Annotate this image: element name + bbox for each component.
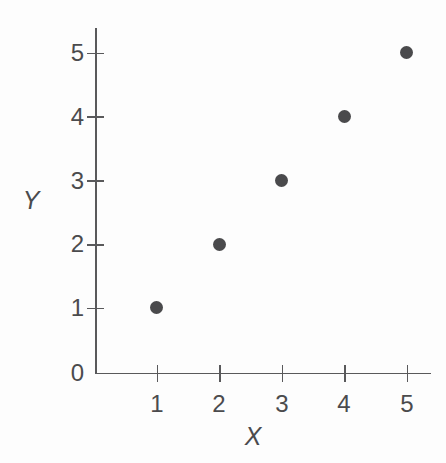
data-point-5 (400, 46, 413, 59)
scatter-plot: 5 4 3 2 1 0 1 2 3 4 5 Y X (0, 0, 446, 463)
y-tick-label-5: 5 (58, 41, 84, 65)
data-point-4 (338, 110, 351, 123)
y-tick-3 (87, 180, 104, 182)
x-axis-title: X (240, 424, 266, 449)
x-tick-label-3: 3 (269, 392, 295, 416)
x-tick-1 (157, 365, 159, 382)
data-point-3 (275, 174, 288, 187)
y-tick-label-4: 4 (58, 105, 84, 129)
x-tick-label-2: 2 (206, 392, 232, 416)
y-tick-label-0: 0 (58, 361, 84, 385)
x-tick-label-1: 1 (144, 392, 170, 416)
x-tick-2 (219, 365, 221, 382)
x-tick-label-4: 4 (331, 392, 357, 416)
x-tick-label-5: 5 (394, 392, 420, 416)
x-tick-5 (407, 365, 409, 382)
y-tick-2 (87, 244, 104, 246)
y-axis-title: Y (18, 188, 44, 213)
x-tick-4 (344, 365, 346, 382)
x-axis-line (95, 373, 431, 375)
y-tick-label-3: 3 (58, 169, 84, 193)
data-point-1 (150, 301, 163, 314)
y-axis-line (95, 28, 97, 374)
y-tick-1 (87, 308, 104, 310)
data-point-2 (213, 238, 226, 251)
y-tick-5 (87, 53, 104, 55)
y-tick-4 (87, 116, 104, 118)
y-tick-label-1: 1 (58, 296, 84, 320)
y-tick-label-2: 2 (58, 232, 84, 256)
x-tick-3 (282, 365, 284, 382)
